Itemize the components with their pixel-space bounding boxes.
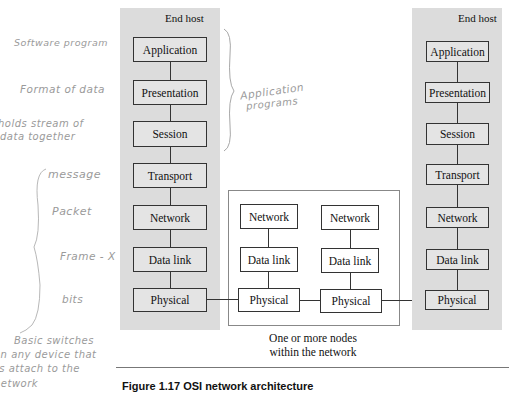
note-bits: bits xyxy=(62,293,83,305)
node-a-datalink: Data link xyxy=(240,247,298,272)
right-layer-presentation: Presentation xyxy=(425,82,490,103)
figure-caption: Figure 1.17 OSI network architecture xyxy=(122,380,313,392)
right-layer-session: Session xyxy=(426,123,489,145)
node-a-network: Network xyxy=(240,204,298,229)
left-layer-presentation: Presentation xyxy=(133,80,207,105)
left-layer-datalink: Data link xyxy=(133,247,207,272)
left-end-host-title: End host xyxy=(165,12,204,24)
note-session-line1: holds stream of xyxy=(0,118,84,129)
right-layer-transport: Transport xyxy=(426,164,489,185)
network-nodes-caption: One or more nodes within the network xyxy=(248,331,378,359)
right-layer-application: Application xyxy=(426,41,489,62)
network-caption-line2: within the network xyxy=(248,345,378,359)
note-basic-switches-line3: is attach to the xyxy=(0,363,80,374)
caption-rule xyxy=(116,367,509,368)
note-basic-switches-line4: network xyxy=(0,378,38,389)
node-b-network: Network xyxy=(321,205,379,230)
note-software-program: Software program xyxy=(14,37,108,48)
node-a-physical: Physical xyxy=(238,288,300,312)
link-left-host-to-node-a xyxy=(207,299,238,300)
right-layer-network: Network xyxy=(426,207,489,228)
note-format-of-data: Format of data xyxy=(20,83,105,95)
left-layer-session: Session xyxy=(133,121,207,147)
right-layer-physical: Physical xyxy=(425,290,489,310)
note-basic-switches-line2: on any device that xyxy=(0,349,97,360)
note-session-line2: data together xyxy=(0,131,75,142)
network-caption-line1: One or more nodes xyxy=(248,331,378,345)
node-b-physical: Physical xyxy=(320,289,382,313)
lower-layers-brace-icon xyxy=(18,165,58,340)
link-node-a-to-node-b xyxy=(300,300,320,301)
left-layer-network: Network xyxy=(133,205,207,230)
right-layer-datalink: Data link xyxy=(426,249,489,270)
note-frame: Frame - X xyxy=(60,250,116,262)
node-b-datalink: Data link xyxy=(321,248,379,273)
left-layer-physical: Physical xyxy=(133,288,207,312)
right-end-host-title: End host xyxy=(458,12,497,24)
application-brace-icon xyxy=(220,25,240,155)
left-layer-transport: Transport xyxy=(133,163,207,188)
left-layer-application: Application xyxy=(133,37,207,62)
